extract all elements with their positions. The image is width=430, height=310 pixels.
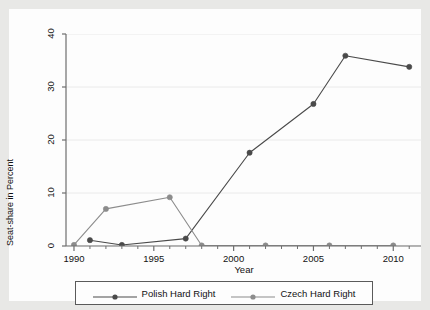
y-tick-label: 40 xyxy=(45,23,56,45)
x-tick-label: 2005 xyxy=(293,253,333,264)
data-point xyxy=(327,243,332,246)
chart-figure: Seat-share in Percent 010203040 19901995… xyxy=(0,0,430,310)
legend-key-icon xyxy=(93,288,137,298)
legend-label: Polish Hard Right xyxy=(142,288,216,299)
data-point xyxy=(343,53,348,58)
data-point xyxy=(247,150,252,155)
series-line-1 xyxy=(74,197,393,245)
data-point xyxy=(407,64,412,69)
data-point xyxy=(71,242,76,246)
data-point xyxy=(183,236,188,241)
chart-canvas: Seat-share in Percent 010203040 19901995… xyxy=(9,9,421,301)
legend-entry-0[interactable]: Polish Hard Right xyxy=(93,288,216,299)
plot-area xyxy=(66,34,422,246)
data-point xyxy=(199,243,204,246)
x-tick-label: 2010 xyxy=(373,253,413,264)
y-tick-label: 10 xyxy=(45,182,56,204)
data-point xyxy=(391,243,396,246)
legend-label: Czech Hard Right xyxy=(280,288,355,299)
legend-key-icon xyxy=(231,288,275,298)
data-point xyxy=(103,206,108,211)
data-point xyxy=(263,243,268,246)
data-point xyxy=(167,195,172,200)
plot-svg xyxy=(66,34,422,246)
x-axis-title: Year xyxy=(66,264,422,275)
data-point xyxy=(119,242,124,246)
y-tick-label: 30 xyxy=(45,76,56,98)
x-tick-label: 1990 xyxy=(54,253,94,264)
x-tick-label: 2000 xyxy=(214,253,254,264)
x-tick-label: 1995 xyxy=(134,253,174,264)
data-point xyxy=(87,238,92,243)
y-axis-title-wrap: Seat-share in Percent xyxy=(15,34,29,246)
chart-legend: Polish Hard RightCzech Hard Right xyxy=(75,281,373,305)
data-point xyxy=(311,101,316,106)
legend-entry-1[interactable]: Czech Hard Right xyxy=(231,288,355,299)
y-tick-label: 20 xyxy=(45,129,56,151)
y-axis-title: Seat-share in Percent xyxy=(5,159,15,246)
